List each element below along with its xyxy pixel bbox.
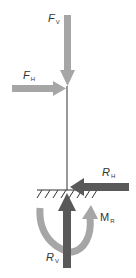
force-arrow-fh [12,81,66,96]
label-fh-sub: H [31,76,35,82]
force-arrow-fv [60,15,75,86]
label-rv-sub: V [55,258,59,264]
label-rv: RV [46,252,59,264]
label-rh-sub: H [111,173,115,179]
label-mr-main: M [100,211,109,223]
reaction-arrow-rv [58,193,76,268]
label-fh: FH [23,70,35,82]
label-rv-main: R [46,251,54,263]
label-fv-main: F [48,12,55,24]
free-body-diagram: FV FH RH MR RV [0,0,136,278]
label-rh: RH [102,167,115,179]
diagram-canvas [0,0,136,278]
label-fv-sub: V [56,19,60,25]
label-mr-sub: R [110,218,114,224]
reaction-arrow-rh [70,178,129,196]
label-fh-main: F [23,69,30,81]
label-rh-main: R [102,166,110,178]
label-mr: MR [100,212,115,224]
label-fv: FV [48,13,60,25]
